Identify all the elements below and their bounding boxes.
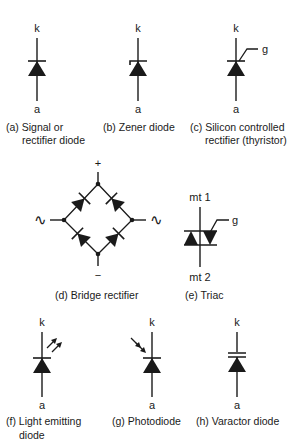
ac-left-icon: ∿ bbox=[34, 211, 47, 228]
semiconductor-symbols-diagram: k a (a) Signal or rectifier diode k a (b… bbox=[0, 0, 292, 440]
caption-line1: (f) Light emitting bbox=[6, 415, 81, 427]
plus-terminal-label: + bbox=[95, 157, 101, 169]
cathode-label: k bbox=[233, 22, 239, 34]
caption-line2: rectifier (thyristor) bbox=[205, 134, 287, 146]
junction-dot bbox=[96, 182, 101, 187]
junction-dot bbox=[62, 218, 67, 223]
cathode-label: k bbox=[234, 316, 240, 328]
ac-right-icon: ∿ bbox=[150, 211, 163, 228]
symbol-zener-diode: k a (b) Zener diode bbox=[103, 22, 175, 133]
junction-dot bbox=[96, 252, 101, 257]
caption-line1: (c) Silicon controlled bbox=[190, 121, 285, 133]
anode-label: a bbox=[234, 399, 241, 411]
cathode-label: k bbox=[39, 316, 45, 328]
emitted-light-arrows-icon bbox=[47, 338, 62, 352]
cathode-label: k bbox=[34, 22, 40, 34]
mt1-label: mt 1 bbox=[189, 191, 210, 203]
anode-label: a bbox=[39, 399, 46, 411]
diode-triangle-icon bbox=[33, 358, 51, 373]
anode-label: a bbox=[135, 103, 142, 115]
caption-line1: (e) Triac bbox=[185, 289, 224, 301]
anode-label: a bbox=[233, 103, 240, 115]
caption-line1: (b) Zener diode bbox=[103, 121, 175, 133]
diode-triangle-icon bbox=[129, 61, 147, 76]
caption-line1: (d) Bridge rectifier bbox=[55, 289, 139, 301]
diode-triangle-icon bbox=[227, 61, 245, 76]
symbol-signal-diode: k a (a) Signal or rectifier diode bbox=[6, 22, 85, 146]
bridge-diamond bbox=[64, 184, 132, 254]
minus-terminal-label: − bbox=[95, 269, 101, 281]
anode-label: a bbox=[149, 399, 156, 411]
cathode-label: k bbox=[135, 22, 141, 34]
anode-label: a bbox=[34, 103, 41, 115]
symbol-triac: mt 1 g mt 2 (e) Triac bbox=[184, 191, 238, 301]
caption-line2: diode bbox=[19, 429, 45, 440]
junction-dot bbox=[130, 218, 135, 223]
caption-line1: (g) Photodiode bbox=[112, 415, 181, 427]
gate-label: g bbox=[232, 214, 238, 226]
diode-triangle-icon bbox=[143, 358, 161, 373]
symbol-varactor-diode: k a (h) Varactor diode bbox=[196, 316, 279, 427]
symbol-bridge-rectifier: + − ∿ ∿ bbox=[34, 157, 163, 301]
symbol-thyristor: k g a (c) Silicon controlled rectifier (… bbox=[190, 22, 287, 146]
triangle-up-icon bbox=[184, 231, 198, 245]
symbol-led: k a (f) Light emitting diode bbox=[6, 316, 81, 440]
caption-line1: (h) Varactor diode bbox=[196, 415, 279, 427]
symbol-photodiode: k a (g) Photodiode bbox=[112, 316, 181, 427]
cathode-label: k bbox=[149, 316, 155, 328]
gate-label: g bbox=[262, 43, 268, 55]
caption-line2: rectifier diode bbox=[22, 134, 85, 146]
mt2-label: mt 2 bbox=[189, 271, 210, 283]
diode-triangle-icon bbox=[28, 61, 46, 76]
caption-line1: (a) Signal or bbox=[6, 121, 64, 133]
incident-light-arrows-icon bbox=[131, 338, 146, 353]
gate-lead bbox=[239, 49, 258, 61]
